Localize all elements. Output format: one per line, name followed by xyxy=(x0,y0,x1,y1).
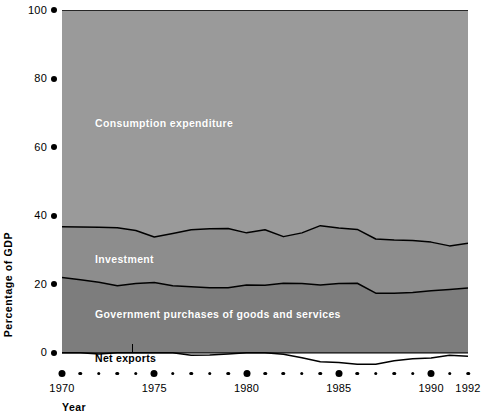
y-axis-tick-dot-icon xyxy=(51,213,57,219)
x-axis-tick-label: 1970 xyxy=(49,382,74,394)
x-axis-tick-dot-icon xyxy=(226,372,230,376)
x-axis: 197019751980198519901992Year xyxy=(62,370,468,417)
y-axis-tick-label: 0 xyxy=(41,347,51,358)
chart-figure: 100806040200 Percentage of GDP Consumpti… xyxy=(0,0,488,417)
x-axis-title: Year xyxy=(62,401,86,413)
x-axis-tick-dot-icon xyxy=(263,372,267,376)
y-axis-tick-dot-icon xyxy=(51,7,57,13)
series-label-government: Government purchases of goods and servic… xyxy=(95,308,341,320)
y-axis-tick-label: 40 xyxy=(34,210,51,221)
x-axis-tick-label: 1975 xyxy=(142,382,167,394)
x-axis-tick-dot-icon xyxy=(282,372,286,376)
x-axis-tick-dot-icon xyxy=(116,372,120,376)
x-axis-tick-label: 1990 xyxy=(418,382,443,394)
x-axis-tick-dot-icon xyxy=(335,370,342,377)
series-label-net-exports: Net exports xyxy=(95,352,156,364)
x-axis-tick-dot-icon xyxy=(171,372,175,376)
y-axis-tick-label: 100 xyxy=(28,5,51,16)
y-axis-tick-dot-icon xyxy=(51,144,57,150)
x-axis-tick-dot-icon xyxy=(59,370,66,377)
series-label-consumption: Consumption expenditure xyxy=(95,117,233,129)
series-label-investment: Investment xyxy=(95,253,154,265)
x-axis-tick-dot-icon xyxy=(243,370,250,377)
x-axis-tick-dot-icon xyxy=(97,372,101,376)
x-axis-tick-label: 1980 xyxy=(234,382,259,394)
y-axis-tick-dot-icon xyxy=(51,281,57,287)
x-axis-tick-dot-icon xyxy=(151,370,158,377)
x-axis-tick-dot-icon xyxy=(134,372,138,376)
x-axis-tick-dot-icon xyxy=(356,372,360,376)
y-axis-title: Percentage of GDP xyxy=(2,232,14,337)
plot-area: Consumption expenditure Investment Gover… xyxy=(62,10,468,370)
x-axis-tick-dot-icon xyxy=(466,372,470,376)
x-axis-tick-dot-icon xyxy=(448,372,452,376)
y-axis-tick-dot-icon xyxy=(51,76,57,82)
x-axis-tick-label: 1992 xyxy=(455,382,480,394)
y-axis: 100806040200 xyxy=(0,0,62,417)
x-axis-tick-dot-icon xyxy=(300,372,304,376)
x-axis-tick-dot-icon xyxy=(208,372,212,376)
x-axis-tick-dot-icon xyxy=(428,370,435,377)
x-axis-tick-dot-icon xyxy=(189,372,193,376)
y-axis-tick-dot-icon xyxy=(51,350,57,356)
x-axis-tick-dot-icon xyxy=(411,372,415,376)
y-axis-tick-label: 60 xyxy=(34,142,51,153)
x-axis-tick-dot-icon xyxy=(392,372,396,376)
x-axis-tick-dot-icon xyxy=(319,372,323,376)
x-axis-tick-label: 1985 xyxy=(326,382,351,394)
x-axis-tick-dot-icon xyxy=(374,372,378,376)
x-axis-tick-dot-icon xyxy=(79,372,83,376)
y-axis-tick-label: 20 xyxy=(34,279,51,290)
y-axis-tick-label: 80 xyxy=(34,73,51,84)
